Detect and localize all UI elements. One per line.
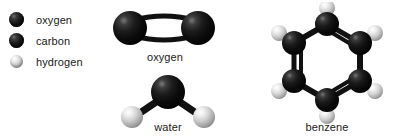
legend-item-label: oxygen bbox=[36, 12, 72, 28]
atom-carbon bbox=[315, 88, 339, 112]
molecule-benzene-model bbox=[262, 2, 392, 126]
molecule-benzene: benzene bbox=[262, 2, 392, 138]
atom-carbon bbox=[282, 69, 306, 93]
atom-oxygen bbox=[151, 75, 185, 109]
molecule-label: benzene bbox=[262, 120, 392, 134]
atom-legend: oxygen carbon hydrogen bbox=[6, 10, 106, 78]
legend-item-label: hydrogen bbox=[36, 54, 83, 70]
sphere-icon bbox=[9, 33, 24, 48]
molecule-label: water bbox=[118, 120, 218, 134]
legend-item-oxygen: oxygen bbox=[6, 10, 106, 30]
atom-carbon bbox=[348, 31, 372, 55]
molecule-oxygen: oxygen bbox=[110, 2, 220, 68]
sphere-icon bbox=[10, 55, 23, 68]
legend-item-carbon: carbon bbox=[6, 31, 106, 51]
figure-canvas: oxygen carbon hydrogen bbox=[0, 0, 400, 140]
molecule-water: water bbox=[118, 72, 218, 138]
atom-oxygen bbox=[113, 11, 147, 45]
sphere-icon bbox=[9, 12, 24, 27]
atom-carbon bbox=[315, 12, 339, 36]
molecule-label: oxygen bbox=[110, 50, 220, 64]
molecule-oxygen-model bbox=[110, 2, 220, 50]
legend-item-hydrogen: hydrogen bbox=[6, 52, 106, 72]
atom-carbon bbox=[282, 31, 306, 55]
atom-oxygen bbox=[181, 11, 215, 45]
atom-carbon bbox=[348, 69, 372, 93]
legend-item-label: carbon bbox=[36, 33, 70, 49]
